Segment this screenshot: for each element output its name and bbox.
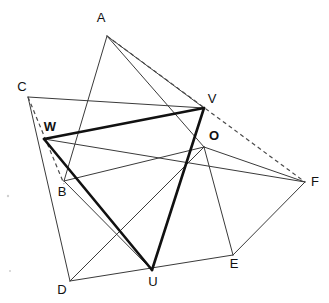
label-A: A [97,10,106,25]
label-V: V [208,91,217,106]
label-E: E [230,256,239,271]
segment-W-V-bold [44,108,204,139]
segment-A-F-dashed [107,36,305,182]
segment-A-O [107,36,204,147]
segment-C-V [28,97,204,108]
segment-A-B [64,36,107,181]
segment-E-F [233,182,305,255]
speck-bottom-left [9,270,11,272]
label-W: W [44,119,57,134]
label-U: U [148,274,157,289]
geometry-diagram: A B C D E F O U V W [0,0,329,303]
segment-E-O [204,147,233,255]
label-F: F [311,174,319,189]
segment-B-U-thin [64,181,152,270]
thin-edges-group [28,36,305,281]
scan-artifacts-group [7,195,11,272]
geometry-canvas: A B C D E F O U V W [0,0,329,303]
bold-triangle-WVU [44,108,204,270]
vertex-labels-group: A B C D E F O U V W [17,10,319,297]
label-B: B [58,184,67,199]
speck-left [7,195,9,197]
label-C: C [17,79,26,94]
segment-F-O [204,147,305,182]
segment-U-W-bold [44,139,152,270]
label-O: O [209,128,219,143]
segment-F-W [44,139,305,182]
segment-V-U-bold [152,108,204,270]
label-D: D [57,282,66,297]
